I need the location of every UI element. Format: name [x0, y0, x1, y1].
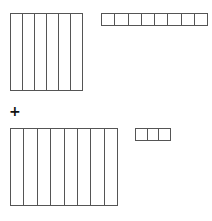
unit-cube [136, 129, 148, 140]
tens-rod [65, 129, 78, 205]
tens-rod [105, 129, 117, 205]
tens-rod [59, 14, 71, 90]
unit-cube [168, 14, 181, 25]
addend-2-tens-block [10, 128, 118, 206]
tens-rod [47, 14, 59, 90]
addend-2-ones-strip [135, 128, 171, 141]
tens-rod [91, 129, 104, 205]
tens-rod [35, 14, 47, 90]
unit-cube [195, 14, 207, 25]
unit-cube [102, 14, 115, 25]
unit-cube [142, 14, 155, 25]
addend-1-tens-block [10, 13, 83, 91]
plus-sign: + [9, 104, 21, 118]
tens-rod [51, 129, 64, 205]
addend-1-ones-strip [101, 13, 208, 26]
tens-rod [24, 129, 37, 205]
unit-cube [159, 129, 170, 140]
tens-rod [78, 129, 91, 205]
unit-cube [115, 14, 128, 25]
tens-rod [11, 129, 24, 205]
tens-rod [11, 14, 23, 90]
unit-cube [182, 14, 195, 25]
tens-rod [38, 129, 51, 205]
unit-cube [155, 14, 168, 25]
unit-cube [129, 14, 142, 25]
tens-rod [23, 14, 35, 90]
tens-rod [71, 14, 82, 90]
unit-cube [148, 129, 160, 140]
